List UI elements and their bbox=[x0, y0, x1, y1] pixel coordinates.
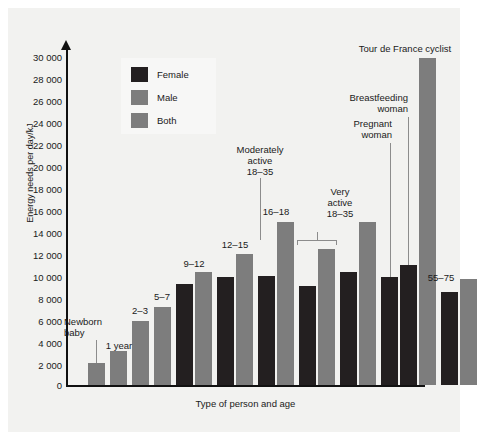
annotation-9-12: 9–12 bbox=[171, 258, 217, 269]
annotation-moderately-active-line1: Moderately bbox=[216, 144, 304, 155]
annotation-breastfeeding-woman-line2: woman bbox=[314, 103, 408, 114]
legend-swatch-female bbox=[131, 67, 148, 82]
bar-12-15-female bbox=[217, 277, 234, 385]
x-axis-title: Type of person and age bbox=[66, 398, 425, 409]
bar-2-3-both bbox=[132, 321, 149, 385]
bracket-tick-right bbox=[336, 240, 337, 245]
leader-line-breastfeeding-woman bbox=[408, 117, 409, 265]
y-tick-30000: 30 000 bbox=[12, 53, 62, 62]
annotation-12-15: 12–15 bbox=[212, 239, 258, 250]
annotation-newborn-baby-line1: Newborn bbox=[64, 316, 122, 327]
y-tick-6000: 6 000 bbox=[12, 317, 62, 326]
annotation-newborn-baby-line2: baby bbox=[64, 327, 122, 338]
y-tick-10000: 10 000 bbox=[12, 273, 62, 282]
bar-55-75-male bbox=[460, 279, 477, 385]
bar-55-75-female bbox=[441, 292, 458, 385]
y-tick-20000: 20 000 bbox=[12, 163, 62, 172]
annotation-moderately-active-line3: 18–35 bbox=[216, 166, 304, 177]
annotation-pregnant-woman-line2: woman bbox=[322, 129, 392, 140]
leader-line-pregnant-woman bbox=[390, 143, 391, 277]
bar-9-12-male bbox=[195, 272, 212, 385]
annotation-moderately-active-line2: active bbox=[216, 155, 304, 166]
y-tick-8000: 8 000 bbox=[12, 295, 62, 304]
bar-breastfeeding-woman-female bbox=[400, 265, 417, 385]
annotation-5-7: 5–7 bbox=[139, 291, 185, 302]
y-tick-24000: 24 000 bbox=[12, 119, 62, 128]
bar-16-18-female bbox=[258, 276, 275, 385]
y-tick-26000: 26 000 bbox=[12, 97, 62, 106]
bar-tour-de-france-cyclist-male bbox=[419, 58, 436, 385]
annotation-2-3: 2–3 bbox=[117, 305, 163, 316]
legend: Female Male Both bbox=[121, 58, 216, 134]
y-tick-2000: 2 000 bbox=[12, 361, 62, 370]
legend-label-male: Male bbox=[157, 92, 178, 103]
legend-label-female: Female bbox=[157, 69, 189, 80]
leader-line-bracket-stem bbox=[317, 232, 318, 241]
bar-moderately-active-18-35-male bbox=[318, 249, 335, 385]
annotation-55-75: 55–75 bbox=[418, 272, 464, 283]
annotation-1-year: 1 year bbox=[96, 340, 142, 351]
y-tick-18000: 18 000 bbox=[12, 185, 62, 194]
bar-moderately-active-18-35-female bbox=[299, 286, 316, 385]
y-tick-22000: 22 000 bbox=[12, 141, 62, 150]
annotation-very-active-line2: active bbox=[312, 197, 368, 208]
annotation-pregnant-woman-line1: Pregnant bbox=[322, 118, 392, 129]
y-tick-28000: 28 000 bbox=[12, 75, 62, 84]
bar-pregnant-woman-female bbox=[381, 277, 398, 385]
bar-newborn-baby-both bbox=[88, 363, 105, 385]
bar-very-active-18-35-female bbox=[340, 272, 357, 385]
bar-12-15-male bbox=[236, 254, 253, 385]
legend-swatch-male bbox=[131, 90, 148, 105]
y-tick-12000: 12 000 bbox=[12, 251, 62, 260]
bar-1-year-both bbox=[110, 351, 127, 385]
bar-16-18-male bbox=[277, 222, 294, 386]
leader-line-moderately-active bbox=[260, 178, 261, 240]
annotation-breastfeeding-woman-line1: Breastfeeding bbox=[314, 92, 408, 103]
bracket-tick-left bbox=[297, 240, 298, 245]
y-axis-ticks: 30 000 28 000 26 000 24 000 22 000 20 00… bbox=[10, 0, 62, 443]
bar-5-7-both bbox=[154, 307, 171, 386]
y-tick-0: 0 bbox=[12, 381, 62, 390]
annotation-very-active-line1: Very bbox=[312, 186, 368, 197]
annotation-very-active-line3: 18–35 bbox=[312, 208, 368, 219]
annotation-tour-de-france-cyclist: Tour de France cyclist bbox=[340, 43, 470, 54]
y-tick-14000: 14 000 bbox=[12, 229, 62, 238]
y-tick-16000: 16 000 bbox=[12, 207, 62, 216]
bar-very-active-18-35-male bbox=[359, 222, 376, 386]
y-tick-4000: 4 000 bbox=[12, 339, 62, 348]
legend-swatch-both bbox=[131, 113, 148, 128]
legend-label-both: Both bbox=[157, 115, 177, 126]
